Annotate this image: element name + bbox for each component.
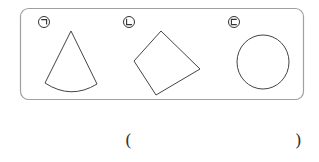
answer-close-paren: ) [295, 130, 302, 150]
label-b: ㉡ [124, 17, 135, 28]
label-a: ㉠ [39, 17, 50, 28]
answer-blank[interactable] [140, 130, 290, 150]
answer-open-paren: ( [125, 130, 132, 150]
shapes-frame [21, 9, 304, 100]
label-c: ㉢ [229, 17, 240, 28]
